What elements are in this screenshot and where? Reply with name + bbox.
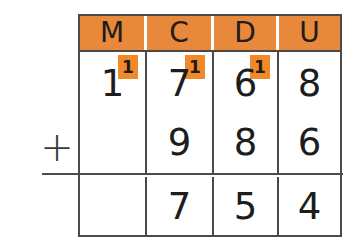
addends-block: 1 1 1 7 9 1 6	[80, 52, 340, 175]
header-cell-u: U	[279, 16, 340, 50]
plus-operator: +	[38, 127, 76, 167]
sum-cell-c: 7	[147, 177, 212, 235]
addend2-digit-u: 6	[298, 124, 322, 161]
sum-cell-m	[80, 177, 145, 235]
sum-digit-d: 5	[234, 188, 258, 225]
sum-digit-u: 4	[298, 188, 322, 225]
sum-cell-u: 4	[279, 177, 340, 235]
addend2-cell-c: 9	[147, 114, 212, 170]
addend2-cell-u: 6	[279, 114, 340, 170]
header-cell-m: M	[80, 16, 147, 50]
addend-column-d: 1 6 8	[214, 52, 279, 175]
place-value-header-row: M C D U	[80, 16, 340, 52]
sum-column-d: 5	[214, 177, 279, 235]
addend2-cell-m	[80, 114, 145, 170]
addend2-digit-c: 9	[168, 124, 192, 161]
place-value-grid: M C D U 1 1 1 7 9	[78, 14, 342, 237]
addend1-cell-d: 6	[214, 55, 277, 111]
addend-column-m: 1 1	[80, 52, 147, 175]
addend1-cell-c: 7	[147, 55, 212, 111]
addend1-cell-u: 8	[279, 55, 340, 111]
addend1-cell-m: 1	[80, 55, 145, 111]
sum-digit-c: 7	[168, 188, 192, 225]
addend1-digit-c: 7	[168, 65, 192, 102]
header-cell-c: C	[147, 16, 214, 50]
header-cell-d: D	[214, 16, 279, 50]
addend1-digit-d: 6	[234, 65, 258, 102]
sum-column-u: 4	[279, 177, 340, 235]
sum-row: 7 5 4	[80, 177, 340, 235]
addend2-cell-d: 8	[214, 114, 277, 170]
addend-column-c: 1 7 9	[147, 52, 214, 175]
sum-cell-d: 5	[214, 177, 277, 235]
addend-column-u: 8 6	[279, 52, 340, 175]
addend2-digit-d: 8	[234, 124, 258, 161]
sum-column-m	[80, 177, 147, 235]
sum-column-c: 7	[147, 177, 214, 235]
column-addition-worksheet: + M C D U 1 1 1 7	[0, 0, 355, 249]
addend1-digit-m: 1	[101, 65, 125, 102]
addend1-digit-u: 8	[298, 65, 322, 102]
